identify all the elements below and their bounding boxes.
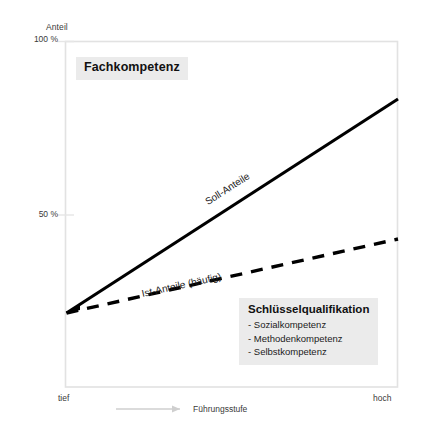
annotation-title-schluesselqualifikation: Schlüsselqualifikation [248, 302, 369, 317]
annotation-title-fachkompetenz: Fachkompetenz [84, 60, 180, 76]
y-axis-tick-label-100: 100 % [22, 34, 58, 44]
y-axis-title: Anteil [46, 22, 68, 32]
series-line-soll-anteile [67, 99, 399, 313]
annotation-item-methodenkompetenz: - Methodenkompetenz [248, 332, 369, 346]
annotation-box-fachkompetenz: Fachkompetenz [76, 57, 188, 80]
x-axis-arrow-icon [116, 406, 180, 413]
annotation-item-selbstkompetenz: - Selbstkompetenz [248, 345, 369, 359]
plot-canvas [0, 0, 423, 434]
annotation-box-schluesselqualifikation: Schlüsselqualifikation - Sozialkompetenz… [239, 298, 378, 365]
x-axis-title: Führungsstufe [193, 404, 247, 414]
x-axis-tick-label-low: tief [58, 393, 69, 403]
chart-figure: Anteil 100 % 50 % tief hoch Führungsstuf… [0, 0, 423, 434]
x-axis-tick-label-high: hoch [373, 393, 391, 403]
y-axis-tick-label-50: 50 % [22, 209, 58, 219]
annotation-item-sozialkompetenz: - Sozialkompetenz [248, 318, 369, 332]
